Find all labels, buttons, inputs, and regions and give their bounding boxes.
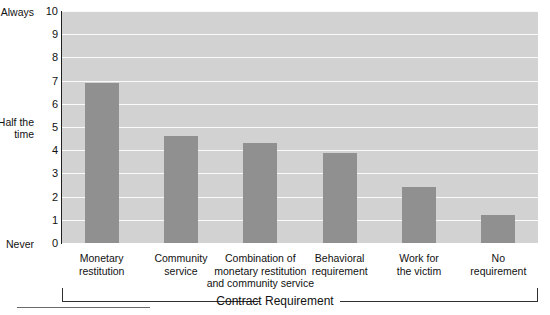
y-tick-label-4: 4 (40, 145, 58, 156)
y-anchor-always: Always (1, 6, 34, 18)
y-tick-label-7: 7 (40, 76, 58, 87)
y-tick-label-10: 10 (40, 6, 58, 17)
gridline-6 (62, 104, 538, 105)
y-tick-label-8: 8 (40, 52, 58, 63)
gridline-7 (62, 81, 538, 82)
gridline-1 (62, 220, 538, 221)
gridline-3 (62, 173, 538, 174)
gridline-9 (62, 34, 538, 35)
bar (323, 153, 357, 243)
y-anchor-never: Never (6, 238, 34, 250)
x-category-label: Norequirement (442, 252, 550, 277)
gridline-5 (62, 127, 538, 128)
y-anchor-half-the-time-line2: time (14, 128, 34, 140)
x-category-label-line: No (442, 252, 550, 265)
y-tick-label-0: 0 (40, 238, 58, 249)
y-tick-label-1: 1 (40, 215, 58, 226)
plot-area (62, 11, 538, 243)
x-axis-title: Contract Requirement (0, 294, 550, 308)
y-tick-label-3: 3 (40, 168, 58, 179)
y-anchor-half-the-time-line1: Half the (0, 116, 34, 128)
footer-rule (17, 307, 150, 308)
bar (164, 136, 198, 243)
y-axis-anchor-labels: Always Half the time Never (0, 0, 34, 315)
bar-chart-figure: Always Half the time Never 012345678910 … (0, 0, 550, 315)
y-tick-label-5: 5 (40, 122, 58, 133)
bar (85, 83, 119, 243)
gridline-4 (62, 150, 538, 151)
bar (481, 215, 515, 243)
gridline-2 (62, 197, 538, 198)
y-tick-label-9: 9 (40, 29, 58, 40)
bar (243, 143, 277, 243)
bar (402, 187, 436, 243)
x-category-label-line: requirement (442, 265, 550, 278)
gridline-10 (62, 11, 538, 12)
gridline-8 (62, 57, 538, 58)
y-tick-label-2: 2 (40, 192, 58, 203)
y-tick-label-6: 6 (40, 99, 58, 110)
